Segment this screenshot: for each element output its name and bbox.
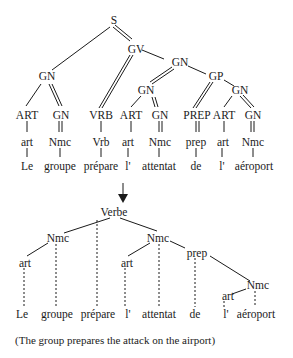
node-gn-inner-object: GN bbox=[138, 84, 155, 96]
top-tree-labels: S GV GN GN GP GN GN ART GN VRB ART GN PR… bbox=[16, 14, 274, 173]
node-nmc-subject: Nmc bbox=[47, 232, 69, 244]
word: attentat bbox=[142, 160, 177, 172]
word: attentat bbox=[142, 308, 177, 320]
node-art-object: art bbox=[121, 257, 134, 269]
caption: (The group prepares the attack on the ai… bbox=[15, 334, 215, 347]
cat-gn: GN bbox=[152, 109, 169, 121]
word: l' bbox=[125, 160, 130, 172]
node-gn-inner-gp: GN bbox=[232, 84, 249, 96]
node-gn-object: GN bbox=[172, 56, 189, 68]
word: l' bbox=[223, 308, 228, 320]
word: de bbox=[190, 308, 201, 320]
word: groupe bbox=[41, 308, 73, 321]
cat-gn: GN bbox=[245, 109, 262, 121]
tag-nmc: Nmc bbox=[242, 136, 264, 148]
word: de bbox=[191, 160, 202, 172]
word: groupe bbox=[44, 160, 76, 173]
cat-vrb: VRB bbox=[89, 109, 113, 121]
word: prépare bbox=[81, 308, 115, 321]
word: l' bbox=[219, 160, 224, 172]
word: l' bbox=[125, 308, 130, 320]
tag-nmc: Nmc bbox=[149, 136, 171, 148]
node-gp: GP bbox=[209, 70, 224, 82]
down-arrow-icon bbox=[118, 183, 128, 203]
tag-art: art bbox=[122, 136, 135, 148]
cat-art: ART bbox=[16, 109, 38, 121]
syntax-tree-diagram: S GV GN GN GP GN GN ART GN VRB ART GN PR… bbox=[0, 0, 293, 358]
node-gv: GV bbox=[128, 43, 145, 55]
node-art-prep: art bbox=[222, 290, 235, 302]
tag-art: art bbox=[217, 136, 230, 148]
node-nmc-prep: Nmc bbox=[247, 279, 269, 291]
node-s: S bbox=[111, 14, 117, 26]
node-prep: prep bbox=[187, 247, 208, 260]
node-gn-subject: GN bbox=[39, 70, 56, 82]
cat-art: ART bbox=[120, 109, 142, 121]
cat-art: ART bbox=[213, 109, 235, 121]
node-art-subject: art bbox=[19, 257, 32, 269]
tag-art: art bbox=[21, 136, 34, 148]
node-verbe: Verbe bbox=[101, 206, 128, 218]
word: prépare bbox=[84, 160, 118, 173]
word: aéroport bbox=[235, 160, 274, 173]
word: Le bbox=[16, 308, 28, 320]
node-nmc-object: Nmc bbox=[147, 232, 169, 244]
cat-prep: PREP bbox=[183, 109, 211, 121]
tag-nmc: Nmc bbox=[49, 136, 71, 148]
tag-prep: prep bbox=[186, 136, 207, 149]
tag-vrb: Vrb bbox=[92, 136, 109, 148]
word: aéroport bbox=[237, 308, 276, 321]
cat-gn: GN bbox=[53, 109, 70, 121]
word: Le bbox=[21, 160, 33, 172]
